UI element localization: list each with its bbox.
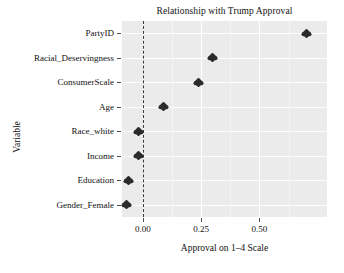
grid-line-horizontal [122,131,327,132]
y-tick-label-age: Age [99,102,114,112]
y-tick-mark [117,156,121,157]
y-tick-mark [117,58,121,59]
grid-line-horizontal [122,58,327,59]
y-tick-mark [117,205,121,206]
grid-line-horizontal [122,156,327,157]
y-tick-label-race_white: Race_white [72,126,114,136]
zero-reference-line [143,21,144,217]
chart-title: Relationship with Trump Approval [122,6,327,16]
y-tick-mark [117,180,121,181]
data-point[interactable] [124,175,134,185]
plot-panel [122,21,327,217]
y-tick-label-income: Income [87,151,114,161]
grid-line-horizontal [122,205,327,206]
data-point[interactable] [133,151,143,161]
data-point[interactable] [133,126,143,136]
grid-line-horizontal [122,180,327,181]
y-tick-mark [117,82,121,83]
data-point[interactable] [159,102,169,112]
y-tick-label-education: Education [78,175,115,185]
y-tick-label-gender_female: Gender_Female [57,200,114,210]
y-tick-mark [117,131,121,132]
grid-line-horizontal [122,82,327,83]
x-tick-mark [143,218,144,222]
y-tick-mark [117,107,121,108]
x-tick-mark [259,218,260,222]
grid-line-vertical-minor [289,21,290,217]
grid-line-horizontal [122,107,327,108]
grid-line-vertical-minor [172,21,173,217]
data-point[interactable] [194,77,204,87]
x-tick-label-0.50: 0.50 [239,224,279,234]
y-tick-label-racial_deservingness: Racial_Deservingness [34,53,114,63]
x-tick-mark [201,218,202,222]
x-tick-label-0.00: 0.00 [123,224,163,234]
y-tick-label-partyid: PartyID [86,28,115,38]
grid-line-vertical-major [259,21,260,217]
y-tick-mark [117,33,121,34]
data-point[interactable] [208,53,218,63]
grid-line-vertical-major [201,21,202,217]
y-axis-title: Variable [12,121,22,153]
y-tick-label-consumerscale: ConsumerScale [58,77,115,87]
dot-plot-chart: Relationship with Trump Approval Approva… [0,0,344,273]
x-tick-label-0.25: 0.25 [181,224,221,234]
data-point[interactable] [122,200,132,210]
x-axis-title: Approval on 1–4 Scale [122,243,327,253]
grid-line-horizontal [122,33,327,34]
data-point[interactable] [301,28,311,38]
grid-line-vertical-minor [230,21,231,217]
